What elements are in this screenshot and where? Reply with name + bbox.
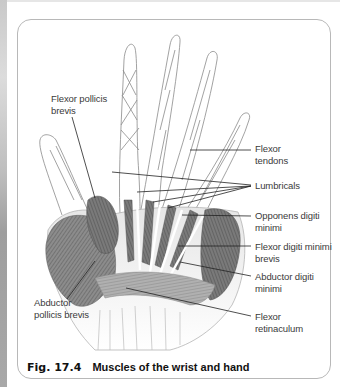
label-line: retinaculum xyxy=(255,323,303,335)
label-line: brevis xyxy=(51,105,107,117)
label-line: Opponens digiti xyxy=(255,210,320,222)
label-line: minimi xyxy=(255,222,320,234)
label-lumbricals: Lumbricals xyxy=(255,180,300,192)
label-line: Flexor pollicis xyxy=(51,93,107,105)
label-line: tendons xyxy=(255,155,288,167)
fingers xyxy=(40,35,250,225)
label-flexor-digiti-minimi-brevis: Flexor digiti minimi brevis xyxy=(255,241,332,265)
label-abductor-digiti-minimi: Abductor digiti minimi xyxy=(255,271,314,295)
label-line: Abductor digiti xyxy=(255,271,314,283)
figure-number: Fig. 17.4 xyxy=(27,361,81,374)
label-line: pollicis brevis xyxy=(34,309,89,321)
label-line: Flexor xyxy=(255,143,288,155)
label-flexor-tendons: Flexor tendons xyxy=(255,143,288,167)
figure-caption: Fig. 17.4 Muscles of the wrist and hand xyxy=(27,361,249,374)
label-line: Lumbricals xyxy=(255,180,300,192)
label-line: Abductor xyxy=(34,297,89,309)
label-opponens-digiti-minimi: Opponens digiti minimi xyxy=(255,210,320,234)
label-abductor-pollicis-brevis: Abductor pollicis brevis xyxy=(34,297,89,321)
label-flexor-retinaculum: Flexor retinaculum xyxy=(255,311,303,335)
label-line: Flexor digiti minimi xyxy=(255,241,332,253)
label-flexor-pollicis-brevis: Flexor pollicis brevis xyxy=(51,93,107,117)
label-line: brevis xyxy=(255,253,332,265)
label-line: minimi xyxy=(255,283,314,295)
figure-title: Muscles of the wrist and hand xyxy=(92,361,249,373)
label-line: Flexor xyxy=(255,311,303,323)
